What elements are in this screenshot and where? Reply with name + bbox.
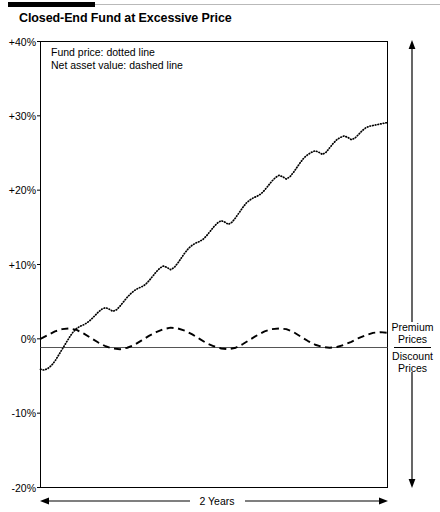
premium-label-line1: Premium [391,321,433,333]
y-axis-tick-label: +10% [9,259,36,271]
y-axis-tick-label: -20% [11,482,36,494]
discount-label-line2: Prices [398,362,427,374]
y-axis-tick-label: +30% [9,110,36,122]
plot-frame [41,42,388,488]
premium-label-line2: Prices [398,333,427,345]
net-asset-value-line [41,328,388,350]
y-axis-tick-label: +40% [9,36,36,48]
chart-figure: +40%+30%+20%+10%0%-10%-20% Fund price: d… [0,0,440,512]
legend: Fund price: dotted line Net asset value:… [47,46,384,75]
y-axis-tick-marks [37,42,41,488]
duration-label: 2 Years [199,495,234,507]
fund-price-line [41,123,388,371]
discount-label-line1: Discount [392,350,433,362]
chart-canvas: +40%+30%+20%+10%0%-10%-20% Fund price: d… [0,0,440,512]
premium-discount-arrow [394,40,431,488]
legend-fund-price-label: Fund price: dotted line [51,46,155,58]
y-axis-tick-label: -10% [11,407,36,419]
y-axis-tick-label: +20% [9,184,36,196]
y-axis-tick-labels: +40%+30%+20%+10%0%-10%-20% [9,36,36,494]
y-axis-tick-label: 0% [21,333,36,345]
legend-nav-label: Net asset value: dashed line [51,59,183,71]
